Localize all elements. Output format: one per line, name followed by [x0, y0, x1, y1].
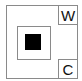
label-w: W [61, 8, 75, 23]
black-core-square [25, 34, 41, 50]
label-w-box: W [58, 5, 78, 25]
label-c: C [63, 62, 74, 77]
label-c-box: C [58, 59, 78, 79]
